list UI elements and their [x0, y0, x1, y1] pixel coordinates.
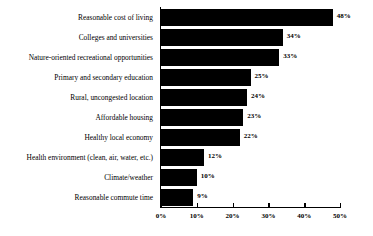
bar-value-label: 34%	[287, 30, 301, 43]
bar	[161, 69, 251, 86]
x-axis-tick-label: 0%	[156, 211, 167, 221]
bar-value-label: 25%	[255, 70, 269, 83]
table-row: 25%	[161, 68, 340, 88]
category-label: Reasonable commute time	[0, 188, 157, 208]
bar-value-label: 22%	[244, 130, 258, 143]
category-label: Affordable housing	[0, 108, 157, 128]
table-row: 23%	[161, 108, 340, 128]
x-axis-tick	[197, 203, 198, 208]
bar-value-label: 48%	[337, 10, 351, 23]
bar	[161, 169, 197, 186]
bar-value-label: 23%	[247, 110, 261, 123]
x-axis-tick	[268, 203, 269, 208]
x-axis-tick	[304, 203, 305, 208]
x-axis-tick-label: 50%	[333, 211, 347, 221]
x-axis-tick-label: 20%	[226, 211, 240, 221]
bar	[161, 149, 204, 166]
category-label: Climate/weather	[0, 168, 157, 188]
category-label: Colleges and universities	[0, 28, 157, 48]
bar	[161, 129, 240, 146]
x-axis-tick	[340, 203, 341, 208]
x-axis-tick-label: 30%	[261, 211, 275, 221]
category-axis-labels: Reasonable cost of livingColleges and un…	[0, 8, 157, 207]
bar	[161, 29, 283, 46]
table-row: 33%	[161, 48, 340, 68]
x-axis-tick-label: 10%	[190, 211, 204, 221]
table-row: 34%	[161, 28, 340, 48]
bar	[161, 9, 333, 26]
bar-value-label: 24%	[251, 90, 265, 103]
x-axis-tick-label: 40%	[297, 211, 311, 221]
bar	[161, 109, 243, 126]
bar-value-label: 33%	[283, 50, 297, 63]
category-label: Healthy local economy	[0, 128, 157, 148]
category-label: Rural, uncongested location	[0, 88, 157, 108]
y-axis-line	[160, 7, 161, 208]
table-row: 12%	[161, 148, 340, 168]
bar	[161, 89, 247, 106]
category-label: Reasonable cost of living	[0, 8, 157, 28]
category-label: Nature-oriented recreational opportuniti…	[0, 48, 157, 68]
bar-rows: 48%34%33%25%24%23%22%12%10%9%	[161, 8, 340, 208]
bar-chart: Reasonable cost of livingColleges and un…	[0, 0, 373, 236]
category-label: Primary and secondary education	[0, 68, 157, 88]
x-axis-line	[160, 207, 341, 208]
plot-area: 48%34%33%25%24%23%22%12%10%9%	[161, 8, 340, 207]
x-axis-tick	[161, 203, 162, 208]
table-row: 24%	[161, 88, 340, 108]
bar-value-label: 9%	[197, 190, 208, 203]
bar	[161, 49, 279, 66]
x-axis-tick	[233, 203, 234, 208]
bar-value-label: 10%	[201, 170, 215, 183]
bar-value-label: 12%	[208, 150, 222, 163]
table-row: 22%	[161, 128, 340, 148]
table-row: 10%	[161, 168, 340, 188]
table-row: 48%	[161, 8, 340, 28]
category-label: Health environment (clean, air, water, e…	[0, 148, 157, 168]
table-row: 9%	[161, 188, 340, 208]
bar	[161, 189, 193, 206]
